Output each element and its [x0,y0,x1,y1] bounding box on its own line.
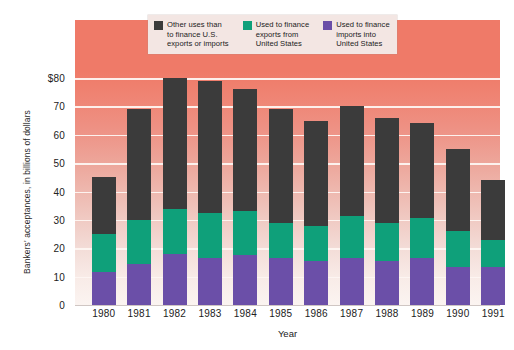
bar-segment-exports-1986 [304,226,328,261]
bar-group-1980 [92,20,116,305]
bar-segment-other-uses-1985 [269,109,293,223]
bar-segment-imports-1981 [127,264,151,305]
y-tick-80: $80 [48,73,65,84]
x-tick-1982: 1982 [163,308,186,319]
x-tick-1985: 1985 [269,308,292,319]
bar-segment-exports-1985 [269,223,293,258]
bar-group-1983 [198,20,222,305]
bar-segment-imports-1988 [375,261,399,305]
bar-segment-other-uses-1990 [446,149,470,231]
bar-segment-imports-1987 [340,258,364,305]
bar-segment-other-uses-1991 [481,180,505,240]
y-tick-60: 60 [53,129,65,140]
y-tick-40: 40 [53,186,65,197]
y-tick-50: 50 [53,158,65,169]
bar-group-1987 [340,20,364,305]
bar-group-1988 [375,20,399,305]
legend-swatch-other-uses [154,21,163,30]
x-tick-1983: 1983 [198,308,221,319]
plot-area [75,20,500,305]
bar-segment-other-uses-1984 [233,89,257,211]
bar-group-1991 [481,20,505,305]
y-tick-10: 10 [53,271,65,282]
bar-segment-other-uses-1982 [163,78,187,209]
bar-group-1990 [446,20,470,305]
x-tick-1991: 1991 [482,308,505,319]
bar-segment-imports-1989 [410,258,434,305]
bar-group-1984 [233,20,257,305]
x-tick-1980: 1980 [92,308,115,319]
bar-segment-exports-1981 [127,220,151,264]
legend-label-1: Used to finance exports from United Stat… [256,20,310,49]
bar-segment-exports-1980 [92,234,116,272]
bar-segment-exports-1989 [410,218,434,258]
bar-segment-other-uses-1988 [375,118,399,223]
legend-entry-1: Used to finance exports from United Stat… [243,20,310,49]
y-axis-tick-labels: 010203040506070$80 [0,20,70,305]
bars-container [75,20,500,305]
bar-segment-exports-1982 [163,209,187,254]
bar-segment-imports-1985 [269,258,293,305]
legend-label-2: Used to finance imports into United Stat… [336,20,390,49]
x-tick-1989: 1989 [411,308,434,319]
bar-group-1985 [269,20,293,305]
stacked-bar-chart: Bankers' acceptances, in billions of dol… [0,0,514,350]
legend-entry-0: Other uses than to finance U.S. exports … [154,20,229,49]
bar-segment-imports-1991 [481,267,505,305]
bar-segment-exports-1991 [481,240,505,267]
legend-swatch-imports [323,21,332,30]
x-tick-1990: 1990 [446,308,469,319]
bar-segment-exports-1988 [375,223,399,261]
x-tick-1981: 1981 [128,308,151,319]
bar-segment-other-uses-1983 [198,81,222,213]
bar-segment-exports-1990 [446,231,470,266]
y-tick-0: 0 [59,300,65,311]
gridline-0 [75,305,500,306]
bar-segment-other-uses-1980 [92,177,116,234]
x-tick-1987: 1987 [340,308,363,319]
bar-segment-imports-1986 [304,261,328,305]
bar-segment-exports-1987 [340,216,364,259]
bar-segment-imports-1980 [92,272,116,305]
x-tick-1984: 1984 [234,308,257,319]
legend-entry-2: Used to finance imports into United Stat… [323,20,390,49]
bar-segment-imports-1983 [198,258,222,305]
x-axis-tick-labels: 1980198119821983198419851986198719881989… [75,308,500,326]
bar-segment-imports-1982 [163,254,187,305]
legend-label-0: Other uses than to finance U.S. exports … [167,20,229,49]
y-tick-20: 20 [53,243,65,254]
y-tick-30: 30 [53,214,65,225]
bar-segment-imports-1990 [446,267,470,305]
bar-group-1989 [410,20,434,305]
bar-segment-other-uses-1986 [304,121,328,226]
bar-segment-other-uses-1989 [410,123,434,218]
bar-group-1982 [163,20,187,305]
y-tick-70: 70 [53,101,65,112]
chart-legend: Other uses than to finance U.S. exports … [148,15,397,54]
legend-swatch-exports [243,21,252,30]
bar-segment-other-uses-1981 [127,109,151,220]
bar-segment-exports-1983 [198,213,222,258]
bar-group-1981 [127,20,151,305]
bar-segment-other-uses-1987 [340,106,364,215]
bar-segment-exports-1984 [233,211,257,255]
x-tick-1988: 1988 [376,308,399,319]
bar-group-1986 [304,20,328,305]
x-axis-title: Year [75,328,500,339]
bar-segment-imports-1984 [233,255,257,305]
x-tick-1986: 1986 [305,308,328,319]
